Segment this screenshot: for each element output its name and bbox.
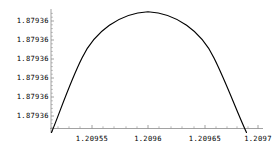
parabola-curve: [52, 12, 247, 133]
y-axis-major-ticks: [51, 21, 54, 116]
plot-screenshot: 1.87936 1.87936 1.87936 1.87936 1.87936 …: [0, 0, 276, 153]
y-tick-label: 1.87936: [17, 55, 49, 63]
x-axis-major-ticks: [92, 125, 258, 129]
y-tick-label: 1.87936: [17, 93, 49, 101]
x-tick-label: 1.2096: [134, 135, 162, 143]
y-tick-label: 1.87936: [17, 36, 49, 44]
x-tick-label: 1.2097: [244, 135, 272, 143]
y-tick-label: 1.87936: [17, 17, 49, 25]
x-tick-label: 1.20955: [76, 135, 108, 143]
y-tick-label: 1.87936: [17, 74, 49, 82]
y-tick-label: 1.87936: [17, 112, 49, 120]
x-tick-label: 1.20965: [189, 135, 221, 143]
